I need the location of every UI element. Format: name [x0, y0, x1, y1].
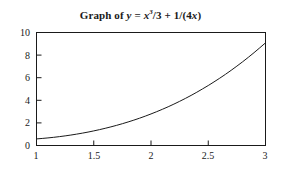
x-tick-label-1: 1: [21, 150, 51, 161]
x-tick-label-2p5: 2.5: [193, 150, 223, 161]
y-tick-label-2: 2: [4, 117, 30, 128]
y-tick-label-8: 8: [4, 50, 30, 61]
y-tick-label-6: 6: [4, 72, 30, 83]
x-tick-label-1p5: 1.5: [79, 150, 109, 161]
chart-figure: Graph of y = x3/3 + 1/(4x) 0 2 4 6 8 1: [0, 0, 281, 173]
x-tick-label-3: 3: [250, 150, 280, 161]
y-tick-label-4: 4: [4, 95, 30, 106]
x-tick-label-2: 2: [136, 150, 166, 161]
plot-frame: [37, 33, 266, 146]
plot-area: [0, 0, 281, 173]
y-tick-label-10: 10: [4, 27, 30, 38]
